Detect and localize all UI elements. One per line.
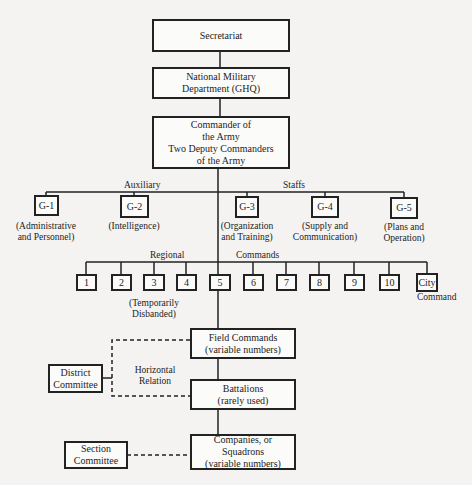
regional-command-1: 1 (76, 274, 97, 291)
staff-desc-g3: (Organization and Training) (215, 221, 279, 243)
city-command-suffix: Command (417, 292, 457, 303)
companies-box: Companies, or Squadrons (variable number… (190, 434, 296, 470)
staff-box-g1: G-1 (34, 195, 59, 216)
regional-command-9: 9 (344, 274, 365, 291)
staff-desc-g4: (Supply and Communication) (290, 221, 360, 243)
regional-command-3: 3 (143, 274, 165, 291)
commander-box: Commander of the Army Two Deputy Command… (152, 116, 290, 169)
regional-command-5: 5 (209, 274, 231, 291)
staff-box-g2: G-2 (120, 195, 149, 218)
horizontal-relation-label: Horizontal Relation (128, 365, 182, 387)
battalions-box: Battalions (rarely used) (190, 379, 296, 410)
staff-box-g5: G-5 (390, 197, 418, 219)
national-military-department-box: National Military Department (GHQ) (152, 67, 290, 99)
staff-desc-g1: (Administrative and Personnel) (4, 221, 88, 243)
staff-desc-g2: (Intelligence) (104, 221, 164, 232)
commands-label: Commands (236, 250, 279, 261)
regional-command-7: 7 (276, 274, 297, 291)
staffs-label: Staffs (283, 180, 305, 191)
regional-command-city: City (416, 273, 438, 292)
regional-command-4: 4 (176, 274, 197, 291)
regional-label: Regional (150, 250, 184, 261)
regional-command-8: 8 (309, 274, 330, 291)
regional-command-6: 6 (243, 274, 264, 291)
staff-desc-g5: (Plans and Operation) (374, 222, 434, 244)
section-committee-box: Section Committee (64, 441, 128, 469)
regional-command-10: 10 (379, 274, 400, 291)
regional-command-2: 2 (111, 274, 132, 291)
auxiliary-label: Auxiliary (124, 180, 160, 191)
district-committee-box: District Committee (48, 364, 103, 393)
staff-box-g4: G-4 (311, 196, 339, 218)
secretariat-box: Secretariat (152, 19, 290, 52)
staff-box-g3: G-3 (235, 196, 259, 218)
field-commands-box: Field Commands (variable numbers) (190, 328, 296, 359)
temporarily-disbanded-note: (Temporarily Disbanded) (120, 298, 188, 320)
